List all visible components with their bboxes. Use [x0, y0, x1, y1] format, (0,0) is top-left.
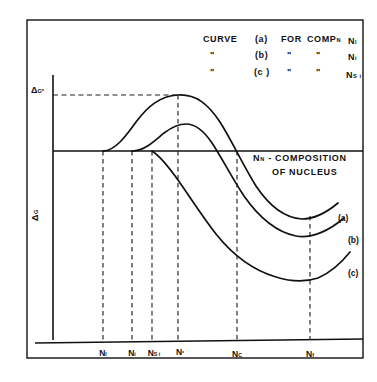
legend-row-1-comp-word: " — [316, 50, 321, 60]
legend-row-2-comp-word: " — [316, 67, 321, 77]
legend-row-2-for-word: " — [287, 67, 292, 77]
curve-label-c: (c) — [348, 268, 359, 278]
legend-row-0-comp-word: COMPN — [307, 34, 341, 44]
free-energy-diagram: CURVE (a) FOR COMPN NI " (b) " " Ni " (c… — [0, 0, 377, 382]
legend-row-1-letter: (b) — [255, 50, 268, 60]
legend-row-0-letter: (a) — [255, 34, 268, 44]
legend-row-2-letter: (c ) — [254, 67, 270, 77]
curve-label-b: (b) — [348, 235, 359, 245]
legend-row-0-curve-word: CURVE — [203, 34, 237, 44]
legend-row-1-curve-word: " — [210, 50, 215, 60]
legend-row-2-curve-word: " — [210, 67, 215, 77]
figure-border — [27, 20, 363, 358]
x-axis-title-line2: OF NUCLEUS — [272, 167, 338, 177]
curve-label-a: (a) — [338, 213, 349, 223]
legend-row-0-for-word: FOR — [281, 34, 302, 44]
x-axis-title-line1: NN - COMPOSITION — [253, 153, 347, 163]
legend-row-1-for-word: " — [287, 50, 292, 60]
